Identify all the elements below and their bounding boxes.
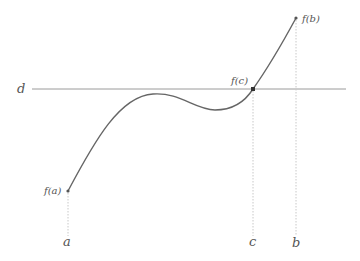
label-d: d (17, 81, 25, 96)
curve-f (68, 18, 296, 191)
point-fb (294, 16, 297, 19)
label-b: b (292, 235, 300, 250)
point-fc (251, 87, 255, 91)
label-a: a (63, 234, 71, 249)
point-fa (66, 189, 69, 192)
ivt-diagram: d f(a) f(b) f(c) a c b (0, 0, 360, 261)
label-fb: f(b) (301, 13, 320, 24)
label-fc: f(c) (230, 75, 248, 86)
label-c: c (249, 234, 257, 249)
label-fa: f(a) (43, 185, 62, 196)
